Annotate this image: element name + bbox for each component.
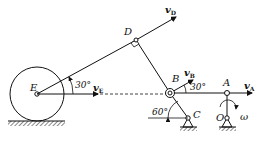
omega-arc [220, 100, 236, 109]
angle-E-label: 30° [75, 80, 91, 90]
label-C: C [193, 109, 201, 120]
vA-label: vA [244, 80, 255, 92]
angle-arc-B [184, 85, 186, 93]
label-O: O [216, 112, 224, 123]
joint-A [225, 91, 230, 96]
label-E: E [29, 82, 38, 93]
ground-wheel [8, 121, 65, 126]
mechanism-diagram: E D B A C O 30° 30° 60° ω vE vD vB vA [0, 0, 262, 149]
angle-arc-C [168, 101, 178, 118]
label-D: D [123, 26, 132, 37]
rod-DB [136, 40, 170, 93]
angle-B-label: 30° [190, 82, 206, 92]
label-B: B [171, 73, 179, 84]
vD-label: vD [165, 4, 176, 16]
vB-label: vB [184, 67, 195, 79]
omega-label: ω [240, 111, 248, 122]
joint-B [168, 91, 172, 95]
angle-C-label: 60° [152, 107, 168, 117]
joint-D [134, 38, 138, 42]
vE-label: vE [93, 82, 104, 94]
label-A: A [222, 77, 230, 88]
vD-arrow [136, 17, 176, 40]
angle-arc-E [69, 77, 73, 94]
